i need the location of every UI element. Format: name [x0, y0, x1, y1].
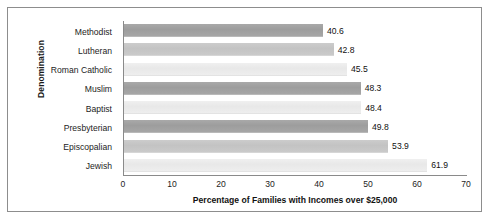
- x-axis-tick-label: 60: [402, 179, 432, 189]
- y-axis-tick-label: Roman Catholic: [34, 65, 112, 75]
- chart-frame: Denomination MethodistLutheranRoman Cath…: [7, 7, 482, 212]
- bar-value-label: 48.4: [365, 103, 382, 113]
- plot-area: 40.642.845.548.348.449.853.961.9 0102030…: [123, 21, 466, 175]
- bar-value-label: 53.9: [392, 141, 409, 151]
- y-axis-tick-label: Lutheran: [34, 46, 112, 56]
- y-axis-tick-label: Presbyterian: [34, 123, 112, 133]
- chart-figure: Denomination MethodistLutheranRoman Cath…: [0, 0, 496, 222]
- bar-value-label: 61.9: [431, 160, 448, 170]
- x-axis-tick-label: 40: [304, 179, 334, 189]
- y-axis-tick-label: Methodist: [34, 27, 112, 37]
- bar-value-label: 42.8: [338, 45, 355, 55]
- bar-value-label: 48.3: [365, 83, 382, 93]
- bar: [124, 101, 361, 114]
- y-axis-tick-labels: MethodistLutheranRoman CatholicMuslimBap…: [34, 22, 112, 175]
- bar: [124, 159, 427, 172]
- y-axis-tick-label: Muslim: [34, 84, 112, 94]
- x-axis-tick-label: 0: [108, 179, 138, 189]
- x-axis-tick-label: 20: [206, 179, 236, 189]
- y-axis-tick-label: Jewish: [34, 161, 112, 171]
- bar: [124, 120, 368, 133]
- x-axis-tick-label: 70: [451, 179, 481, 189]
- bar: [124, 43, 334, 56]
- bar: [124, 63, 347, 76]
- bar: [124, 82, 361, 95]
- bar: [124, 24, 323, 37]
- x-axis-title: Percentage of Families with Incomes over…: [123, 195, 467, 205]
- x-axis-tick-label: 30: [255, 179, 285, 189]
- bar-value-label: 45.5: [351, 64, 368, 74]
- x-axis-line: [123, 175, 467, 176]
- y-axis-tick-label: Episcopalian: [34, 142, 112, 152]
- x-axis-tick-label: 50: [353, 179, 383, 189]
- x-axis-tick-label: 10: [157, 179, 187, 189]
- y-axis-tick-label: Baptist: [34, 104, 112, 114]
- bar-value-label: 40.6: [327, 26, 344, 36]
- bar: [124, 140, 388, 153]
- bar-value-label: 49.8: [372, 122, 389, 132]
